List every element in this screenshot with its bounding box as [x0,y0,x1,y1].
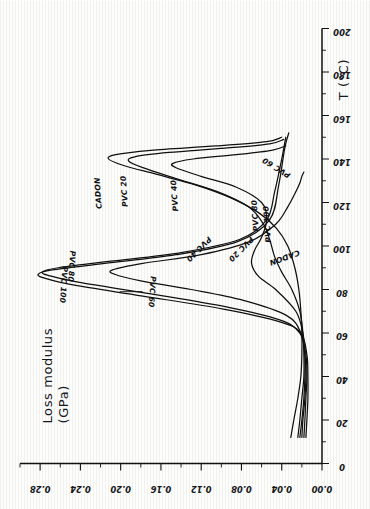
x-tick-label: 200 [333,26,351,36]
loss-modulus-chart: 020406080100120140160180200 0.000.040.08… [0,0,370,509]
x-tick-label: 80 [336,287,348,297]
curve-pvc-60 [110,172,306,437]
curve-label-pvc-60-3: PVC 60 [260,155,292,180]
curve-label-cadon-0: CADON [92,176,103,209]
x-tick-label: 40 [336,374,349,384]
curve-label-pvc-40-2: PVC 40 [169,179,180,211]
curve-pvc-40 [171,145,305,436]
y-tick-label: 0.28 [30,483,51,493]
x-axis-title: T (°C) [336,58,351,100]
y-axis-tick-labels: 0.000.040.080.120.160.200.240.28 [30,483,333,493]
y-axis-title-line2: (GPa) [56,385,71,423]
x-axis-ticks [322,28,329,463]
scanned-figure-page: 020406080100120140160180200 0.000.040.08… [0,0,370,509]
y-tick-label: 0.20 [110,483,131,493]
x-tick-label: 100 [333,244,351,254]
chart-svg: 020406080100120140160180200 0.000.040.08… [0,0,370,509]
y-tick-label: 0.16 [150,483,171,493]
y-tick-label: 0.08 [231,483,252,493]
curve-label-pvc-100-7: PVC 100 [58,266,70,304]
x-tick-label: 0 [339,461,345,471]
curve-label-pvc-20-1: PVC 20 [119,174,130,206]
y-tick-label: 0.04 [271,483,292,493]
x-tick-label: 60 [336,331,348,341]
y-axis-title-line1: Loss modulus [40,327,55,423]
y-tick-label: 0.00 [311,483,332,493]
x-tick-label: 20 [336,418,348,428]
x-tick-label: 160 [333,113,351,123]
y-tick-label: 0.24 [70,483,91,493]
curve-label-pvc-80-4: PVC 80 [249,199,260,231]
data-curves [38,132,308,437]
y-tick-label: 0.12 [191,483,212,493]
curve-label-pvc-60-8: PVC 60 [147,275,158,307]
rotated-figure-container: 020406080100120140160180200 0.000.040.08… [0,0,370,509]
x-tick-label: 120 [333,200,351,210]
x-tick-label: 140 [333,157,351,167]
